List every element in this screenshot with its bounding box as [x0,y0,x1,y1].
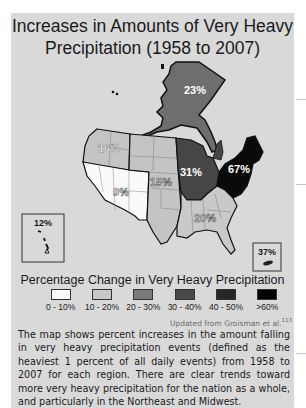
label-northwest: 16% [98,142,120,154]
legend-label: 10 - 20% [85,302,119,312]
legend-item-20-30: 20 - 30% [123,289,164,312]
legend-swatch [92,289,112,300]
legend-swatch [216,289,236,300]
figure-caption: The map shows percent increases in the a… [18,328,290,408]
divider [296,184,306,185]
legend-title: Percentage Change in Very Heavy Precipit… [11,273,294,287]
legend-label: 40 - 50% [209,302,243,312]
title-line-2: Precipitation (1958 to 2007) [11,37,294,59]
credit-text: Updated from Groisman et al. [170,319,282,328]
inset-hawaii: 12% [22,214,64,262]
legend-label: >60% [256,302,278,312]
label-great-plains: 15% [150,176,172,188]
label-southeast: 20% [194,212,216,224]
legend-item-0-10: 0 - 10% [40,289,81,312]
divider [296,99,306,100]
legend-item-30-40: 30 - 40% [164,289,205,312]
inset-puerto-rico: 37% [253,243,281,271]
legend-label: 20 - 30% [126,302,160,312]
map-title: Increases in Amounts of Very Heavy Preci… [11,15,294,59]
legend-label: 0 - 10% [46,302,75,312]
us-regions-map: 23% 16% 9% 15% 31% 67% 20% 12% [11,60,294,272]
title-line-1: Increases in Amounts of Very Heavy [11,15,294,37]
legend-swatch [175,289,195,300]
label-hawaii: 12% [34,218,52,228]
label-northeast: 67% [228,163,250,175]
label-midwest: 31% [180,166,202,178]
credit-reference: 113 [282,317,293,323]
source-credit: Updated from Groisman et al.113 [170,317,292,328]
legend: 0 - 10% 10 - 20% 20 - 30% 30 - 40% 40 - … [40,289,288,312]
divider [296,353,306,354]
legend-swatch [133,289,153,300]
legend-label: 30 - 40% [168,302,202,312]
label-puerto-rico: 37% [258,247,276,257]
legend-swatch [51,289,71,300]
legend-swatch [257,289,277,300]
label-southwest: 9% [113,186,129,198]
legend-item-over-60: >60% [247,289,288,312]
legend-item-40-50: 40 - 50% [205,289,246,312]
label-alaska: 23% [184,84,206,96]
legend-item-10-20: 10 - 20% [81,289,122,312]
